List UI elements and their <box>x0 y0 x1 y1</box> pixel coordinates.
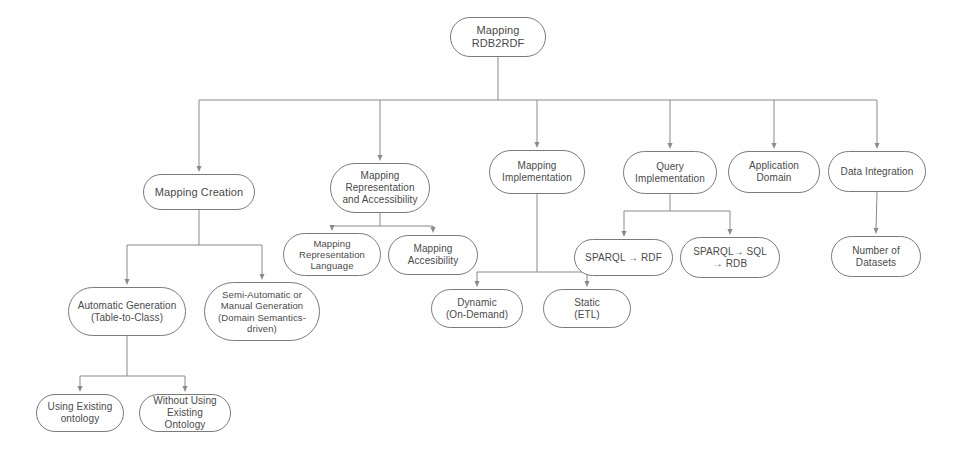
node-creation: Mapping Creation <box>143 174 255 210</box>
node-label: Mapping Representation and Accessibility <box>342 170 417 205</box>
node-label: Mapping Accesibility <box>408 243 459 267</box>
node-mapimpl: Mapping Implementation <box>489 150 585 194</box>
node-queryimpl: Query Implementation <box>623 151 717 194</box>
node-withoutont: Without Using Existing Ontology <box>139 394 231 432</box>
node-label: Query Implementation <box>635 161 705 185</box>
node-label: Mapping Representation Language <box>299 238 365 272</box>
node-label: SPARQL → RDF <box>585 252 662 264</box>
node-sparqlsql: SPARQL→ SQL → RDB <box>680 237 780 278</box>
node-label: Without Using Existing Ontology <box>146 395 224 430</box>
node-label: Application Domain <box>749 160 799 184</box>
node-label: Mapping Implementation <box>502 160 572 184</box>
node-appdomain: Application Domain <box>728 151 820 193</box>
node-accessib: Mapping Accesibility <box>388 235 478 275</box>
node-label: Automatic Generation (Table-to-Class) <box>78 300 177 324</box>
node-label: Number of Datasets <box>852 245 900 269</box>
node-label: SPARQL→ SQL → RDB <box>693 246 767 270</box>
diagram-edges <box>0 0 954 463</box>
node-label: Semi-Automatic or Manual Generation (Dom… <box>218 289 306 334</box>
node-usingont: Using Existing ontology <box>36 394 124 432</box>
node-label: Mapping Creation <box>155 186 243 199</box>
node-replang: Mapping Representation Language <box>283 233 381 276</box>
node-root: Mapping RDB2RDF <box>450 17 546 57</box>
node-label: Using Existing ontology <box>48 401 113 425</box>
node-label: Mapping RDB2RDF <box>472 24 525 50</box>
node-label: Data Integration <box>841 166 914 178</box>
edge-dataint-line <box>876 192 877 231</box>
node-label: Dynamic (On-Demand) <box>446 297 508 321</box>
node-autogen: Automatic Generation (Table-to-Class) <box>68 287 186 336</box>
node-dynamic: Dynamic (On-Demand) <box>431 289 523 328</box>
node-label: Static (ETL) <box>574 297 600 321</box>
node-dataint: Data Integration <box>828 151 926 192</box>
diagram-canvas: Mapping RDB2RDFMapping CreationMapping R… <box>0 0 954 463</box>
node-numdatasets: Number of Datasets <box>831 236 921 277</box>
node-semiauto: Semi-Automatic or Manual Generation (Dom… <box>204 282 320 341</box>
node-static: Static (ETL) <box>543 289 631 328</box>
node-sparqlrdf: SPARQL → RDF <box>574 239 673 276</box>
node-repaccess: Mapping Representation and Accessibility <box>330 163 430 213</box>
